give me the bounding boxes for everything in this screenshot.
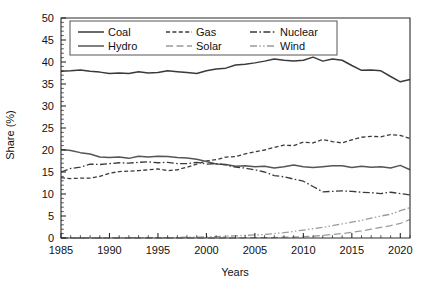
- x-tick-label: 2000: [194, 244, 218, 256]
- y-tick-label: 10: [42, 188, 54, 200]
- y-tick-label: 30: [42, 100, 54, 112]
- x-tick-label: 2005: [243, 244, 267, 256]
- chart-legend: CoalGasNuclearHydroSolarWind: [70, 21, 337, 55]
- x-axis-title: Years: [221, 266, 249, 278]
- x-tick-label: 2015: [340, 244, 364, 256]
- legend-label-hydro: Hydro: [108, 40, 137, 52]
- x-tick-label: 2010: [291, 244, 315, 256]
- legend-label-nuclear: Nuclear: [280, 26, 318, 38]
- x-tick-label: 1990: [97, 244, 121, 256]
- x-tick-label: 1995: [146, 244, 170, 256]
- y-tick-label: 15: [42, 166, 54, 178]
- legend-label-wind: Wind: [280, 40, 305, 52]
- y-tick-label: 45: [42, 34, 54, 46]
- legend-label-coal: Coal: [108, 26, 131, 38]
- y-tick-label: 5: [48, 210, 54, 222]
- legend-label-solar: Solar: [196, 40, 222, 52]
- x-tick-label: 2020: [388, 244, 412, 256]
- chart-figure: 0510152025303540455019851990199520002005…: [0, 0, 430, 289]
- y-tick-label: 0: [48, 232, 54, 244]
- y-tick-label: 50: [42, 12, 54, 24]
- y-axis-title: Share (%): [4, 110, 16, 160]
- y-tick-label: 35: [42, 78, 54, 90]
- y-tick-label: 20: [42, 144, 54, 156]
- y-tick-label: 40: [42, 56, 54, 68]
- x-tick-label: 1985: [49, 244, 73, 256]
- legend-label-gas: Gas: [196, 26, 217, 38]
- y-tick-label: 25: [42, 122, 54, 134]
- share-by-source-line-chart: 0510152025303540455019851990199520002005…: [0, 0, 430, 289]
